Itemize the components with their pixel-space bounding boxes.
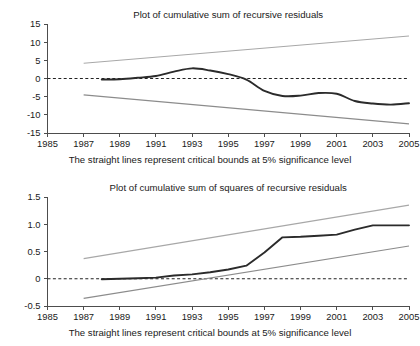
y-tick-label: 1.0 [27, 219, 40, 230]
x-tick-label: 1993 [182, 138, 203, 149]
y-tick-label: -15 [27, 127, 41, 138]
y-tick-label: 0 [35, 273, 40, 284]
x-tick-label: 1997 [254, 138, 275, 149]
y-tick-label: 5 [35, 55, 40, 66]
x-tick-label: 2005 [399, 138, 420, 149]
x-tick-label: 1987 [73, 138, 94, 149]
x-tick-label: 1987 [73, 311, 94, 322]
x-tick-label: 1989 [109, 138, 130, 149]
x-tick-label: 2003 [362, 138, 383, 149]
lower-bound-line [84, 95, 409, 124]
cusumsq-chart: Plot of cumulative sum of squares of rec… [0, 173, 420, 346]
chart-caption: The straight lines represent critical bo… [69, 327, 352, 338]
figure-root: Plot of cumulative sum of recursive resi… [0, 0, 420, 346]
x-tick-label: 1989 [109, 311, 130, 322]
x-tick-label: 1999 [290, 138, 311, 149]
cusum-plot-canvas: Plot of cumulative sum of recursive resi… [0, 0, 420, 173]
y-tick-label: 0.5 [27, 246, 40, 257]
x-tick-label: 2005 [399, 311, 420, 322]
y-tick-label: 1.5 [27, 191, 40, 202]
cusumsq-plot-canvas: Plot of cumulative sum of squares of rec… [0, 173, 420, 346]
x-tick-label: 1985 [37, 311, 58, 322]
x-tick-label: 2001 [326, 138, 347, 149]
x-tick-label: 2001 [326, 311, 347, 322]
x-tick-label: 1999 [290, 311, 311, 322]
y-tick-label: -5 [32, 91, 40, 102]
upper-bound-line [84, 36, 409, 63]
y-tick-label: 0 [35, 73, 40, 84]
x-tick-label: 1995 [218, 138, 239, 149]
x-tick-label: 1985 [37, 138, 58, 149]
y-tick-label: 15 [30, 18, 40, 29]
lower-bound-line [84, 246, 409, 298]
x-tick-label: 1991 [146, 311, 167, 322]
x-tick-label: 1995 [218, 311, 239, 322]
chart-caption: The straight lines represent critical bo… [69, 154, 352, 165]
cusum-chart: Plot of cumulative sum of recursive resi… [0, 0, 420, 173]
y-tick-label: 10 [30, 37, 40, 48]
x-tick-label: 1997 [254, 311, 275, 322]
upper-bound-line [84, 205, 409, 258]
data-series-line [102, 68, 409, 104]
x-tick-label: 1991 [146, 138, 167, 149]
y-tick-label: -10 [27, 109, 41, 120]
x-tick-label: 2003 [362, 311, 383, 322]
chart-title: Plot of cumulative sum of recursive resi… [133, 9, 323, 20]
chart-title: Plot of cumulative sum of squares of rec… [110, 182, 347, 193]
y-tick-label: -0.5 [24, 300, 40, 311]
x-tick-label: 1993 [182, 311, 203, 322]
